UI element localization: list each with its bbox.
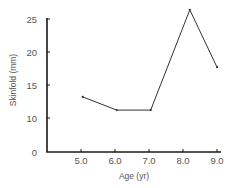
y-tick-label: 20 — [26, 47, 37, 58]
data-point-marker — [189, 9, 191, 11]
y-tick-label: 25 — [26, 14, 37, 25]
axes — [47, 18, 221, 152]
x-tick-label: 9.0 — [210, 155, 223, 166]
data-point-marker — [150, 109, 152, 111]
x-tick-label: 8.0 — [176, 155, 189, 166]
y-tick-label: 15 — [26, 80, 37, 91]
series-line — [83, 10, 217, 110]
data-point-marker — [82, 96, 84, 98]
x-tick-label: 5.0 — [74, 155, 87, 166]
x-tick-label: 7.0 — [142, 155, 155, 166]
data-series — [82, 9, 219, 112]
data-point-marker — [216, 66, 218, 68]
data-point-marker — [116, 109, 118, 111]
y-tick-label: 10 — [26, 113, 37, 124]
y-tick-label: 0 — [32, 147, 37, 158]
x-axis-label: Age (yr) — [119, 171, 149, 181]
x-tick-label: 6.0 — [108, 155, 121, 166]
y-axis-label: Skinfold (mm) — [8, 54, 18, 107]
line-chart: 010152025 5.06.07.08.09.0 Skinfold (mm) … — [0, 0, 234, 188]
